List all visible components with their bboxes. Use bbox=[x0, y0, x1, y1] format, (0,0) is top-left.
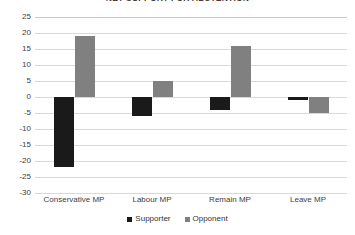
y-axis-tick-label: 25 bbox=[22, 13, 31, 21]
y-axis-tick-label: -30 bbox=[19, 189, 31, 197]
legend-swatch-supporter-icon bbox=[127, 217, 132, 222]
plot-area bbox=[35, 17, 347, 193]
y-axis-tick-label: -20 bbox=[19, 157, 31, 165]
x-axis-category-label: Labour MP bbox=[132, 196, 171, 204]
legend-item-opponent[interactable]: Opponent bbox=[185, 215, 228, 223]
bar-opponent-conservative-mp bbox=[75, 36, 95, 97]
legend-label: Opponent bbox=[193, 215, 228, 223]
y-axis-tick-label: 10 bbox=[22, 61, 31, 69]
bar-supporter-leave-mp bbox=[288, 97, 308, 100]
y-axis-tick-label: -25 bbox=[19, 173, 31, 181]
gridline bbox=[35, 193, 347, 194]
x-axis-category-label: Leave MP bbox=[290, 196, 326, 204]
bar-opponent-leave-mp bbox=[309, 97, 329, 113]
x-axis-category-labels: Conservative MPLabour MPRemain MPLeave M… bbox=[35, 196, 347, 210]
bar-opponent-labour-mp bbox=[153, 81, 173, 97]
y-axis-tick-label: -5 bbox=[24, 109, 31, 117]
bar-supporter-labour-mp bbox=[132, 97, 152, 116]
bars-layer bbox=[35, 17, 347, 193]
y-axis-tick-label: 20 bbox=[22, 29, 31, 37]
bar-opponent-remain-mp bbox=[231, 46, 251, 97]
chart-legend: SupporterOpponent bbox=[0, 215, 355, 223]
x-axis-category-label: Conservative MP bbox=[44, 196, 105, 204]
chart-title: NET SUPPORT FOR ABSTENTION bbox=[0, 0, 355, 3]
bar-supporter-conservative-mp bbox=[54, 97, 74, 167]
bar-supporter-remain-mp bbox=[210, 97, 230, 110]
bar-chart: NET SUPPORT FOR ABSTENTION 2520151050-5-… bbox=[0, 0, 355, 235]
legend-swatch-opponent-icon bbox=[185, 217, 190, 222]
y-axis-tick-labels: 2520151050-5-10-15-20-25-30 bbox=[0, 17, 31, 193]
y-axis-tick-label: 5 bbox=[27, 77, 31, 85]
legend-item-supporter[interactable]: Supporter bbox=[127, 215, 170, 223]
y-axis-tick-label: 15 bbox=[22, 45, 31, 53]
legend-label: Supporter bbox=[135, 215, 170, 223]
y-axis-tick-label: -15 bbox=[19, 141, 31, 149]
y-axis-tick-label: 0 bbox=[27, 93, 31, 101]
x-axis-category-label: Remain MP bbox=[209, 196, 251, 204]
y-axis-tick-label: -10 bbox=[19, 125, 31, 133]
